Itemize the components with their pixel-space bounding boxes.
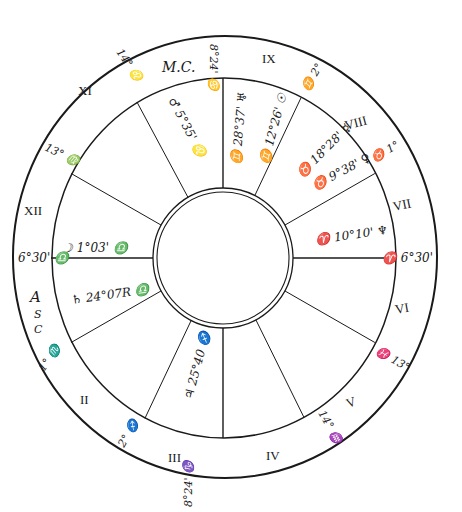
house-numeral-vi: VI — [394, 300, 410, 317]
cusp-label-iv: 8°24' ♑ — [182, 458, 195, 507]
house-cusp-line — [71, 173, 161, 225]
house-numeral-iii: III — [168, 450, 181, 465]
cusp-label-iii: 2° ♐ — [115, 415, 143, 450]
house-numeral-v: V — [344, 393, 359, 411]
cusp-label-ii: 1° ♏ — [36, 340, 65, 374]
house-cusp-line — [285, 291, 375, 343]
planet-neptune: ♈ 10°10' ♆ — [314, 223, 388, 247]
planet-moon: ☽ 1°03' ♎ — [62, 241, 130, 255]
cusp-label-ix: ♊ 2° — [299, 61, 325, 93]
asc-label-s: S — [34, 308, 42, 321]
house-numeral-vii: VII — [392, 196, 413, 214]
house-numeral-iv: IV — [266, 448, 280, 463]
cusp-label-vii: ♈ 6°30' — [382, 251, 433, 265]
planet-uranus: ♊ 28°37' ♅ — [229, 91, 249, 165]
planet-jupiter: ♃ 25°40 ♐ — [181, 328, 213, 401]
cusp-label-viii: ♉ 1° — [369, 138, 401, 164]
house-numeral-xii: XII — [24, 203, 42, 218]
cusp-label-vi: ♓ 13° — [374, 344, 413, 374]
house-numeral-ix: IX — [262, 51, 276, 66]
house-cusp-line — [256, 320, 304, 417]
asc-label-c: C — [34, 323, 43, 336]
cusp-label-x: 8°24' ♋ — [207, 44, 220, 93]
planet-mars: ♂ 5°35' ♌ — [165, 95, 209, 161]
mc-label: M.C. — [161, 59, 195, 75]
horoscope-wheel: XI XII II III IV V VI VII VIII IX M.C. A… — [0, 0, 462, 512]
house-cusp-line — [145, 320, 191, 418]
house-numeral-ii: II — [80, 392, 89, 407]
inner-circle-outer-line — [153, 188, 293, 328]
house-numeral-xi: XI — [78, 83, 92, 98]
asc-label-a: A — [28, 288, 41, 306]
planet-sun: ♊ 12°26' ☉ — [257, 90, 290, 166]
cusp-label-xii: 13° ♍ — [43, 141, 84, 169]
